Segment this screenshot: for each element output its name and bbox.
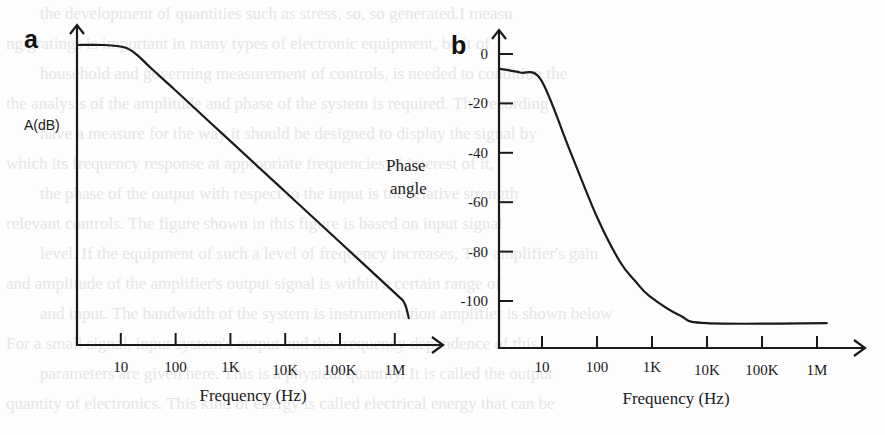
x-tick-label: 1M — [807, 362, 828, 378]
x-tick-label: 10K — [272, 362, 298, 378]
bode-plots: a 101001K10K100K1M A(dB) Frequency (Hz) … — [0, 0, 885, 435]
y-tick-label: -60 — [468, 194, 488, 210]
y-tick-label: -40 — [468, 145, 488, 161]
x-tick-label: 100K — [323, 362, 357, 378]
x-tick-label: 10K — [694, 362, 720, 378]
panel-b-phase-plot: b 101001K10K100K1M 0-20-40-60-80-100 Pha… — [386, 30, 865, 408]
y-tick-label: -20 — [468, 95, 488, 111]
x-tick-label: 10 — [535, 359, 550, 375]
panel-a-gain-plot: a 101001K10K100K1M A(dB) Frequency (Hz) — [24, 25, 443, 405]
panel-b-phase-curve — [500, 69, 827, 324]
panel-b-x-axis-label: Frequency (Hz) — [622, 389, 729, 408]
x-tick-label: 1M — [384, 362, 405, 378]
y-tick-label: 0 — [481, 46, 489, 62]
panel-b-label: b — [451, 31, 466, 59]
x-tick-label: 100 — [586, 359, 609, 375]
panel-a-label: a — [24, 25, 39, 53]
panel-b-y-axis-label-line2: angle — [390, 179, 427, 198]
x-tick-label: 100K — [745, 362, 779, 378]
x-tick-label: 1K — [643, 359, 662, 375]
y-tick-label: -80 — [468, 244, 488, 260]
panel-b-y-axis-label-line1: Phase — [386, 156, 426, 175]
y-tick-label: -100 — [461, 293, 489, 309]
x-tick-label: 1K — [221, 359, 240, 375]
panel-a-y-axis-label: A(dB) — [24, 117, 60, 133]
panel-a-gain-curve — [77, 45, 409, 318]
x-tick-label: 10 — [113, 359, 128, 375]
figure: the development of quantities such as st… — [0, 0, 885, 435]
panel-a-x-axis-label: Frequency (Hz) — [199, 386, 306, 405]
x-tick-label: 100 — [164, 359, 187, 375]
